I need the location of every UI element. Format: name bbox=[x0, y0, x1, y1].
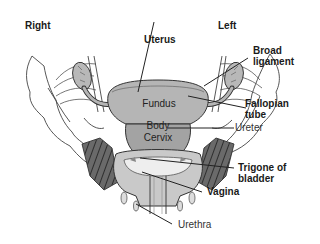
orientation-right-label: Right bbox=[25, 20, 51, 31]
label-fallopian-tube: Fallopian tube bbox=[245, 98, 289, 120]
label-uterus: Uterus bbox=[144, 34, 176, 45]
label-urethra: Urethra bbox=[178, 219, 211, 230]
label-fundus: Fundus bbox=[136, 98, 182, 109]
label-broad-ligament: Broad ligament bbox=[253, 45, 294, 67]
label-cervix: Cervix bbox=[134, 132, 182, 143]
label-trigone-of-bladder: Trigone of bladder bbox=[238, 162, 286, 184]
label-ureter: Ureter bbox=[235, 122, 263, 133]
label-vagina: Vagina bbox=[207, 186, 239, 197]
orientation-left-label: Left bbox=[218, 20, 236, 31]
label-body: Body bbox=[138, 120, 178, 131]
